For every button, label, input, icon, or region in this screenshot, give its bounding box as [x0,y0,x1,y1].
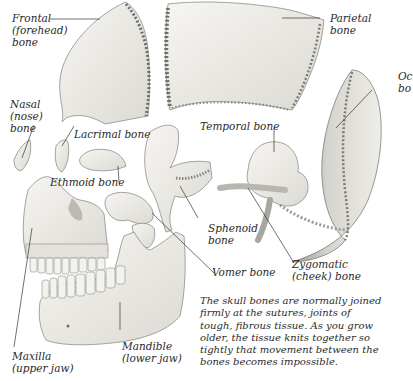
label-zygomatic: Zygomatic (cheek) bone [292,258,361,282]
ethmoid-bone [80,149,126,171]
caption-line: firmly at the sutures, joints of [200,307,412,319]
label-ethmoid: Ethmoid bone [50,176,124,188]
frontal-bone [60,2,150,124]
caption-line: tightly that movement between the [200,344,412,356]
zygomatic-bone [105,192,153,223]
maxilla [23,177,108,274]
caption-line: bones becomes impossible. [200,356,412,368]
caption-line: older, the tissue knits together so [200,332,412,344]
label-nasal: Nasal (nose) bone [10,98,43,134]
label-maxilla: Maxilla (upper jaw) [12,350,73,374]
label-vomer: Vomer bone [212,266,276,278]
label-frontal: Frontal (forehead) bone [12,12,68,48]
label-occipital: Oc bo [398,70,413,94]
lacrimal-bone [55,140,69,172]
label-parietal: Parietal bone [330,12,371,36]
nasal-bone [14,140,31,171]
caption-text: The skull bones are normally joined firm… [200,295,412,369]
occipital-bone [292,70,381,262]
label-lacrimal: Lacrimal bone [74,128,150,140]
caption-line: tough, fibrous tissue. As you grow [200,320,412,332]
caption-line: The skull bones are normally joined [200,295,412,307]
label-mandible: Mandible (lower jaw) [122,340,182,364]
label-temporal: Temporal bone [200,120,279,132]
label-sphenoid: Sphenoid bone [208,222,258,246]
